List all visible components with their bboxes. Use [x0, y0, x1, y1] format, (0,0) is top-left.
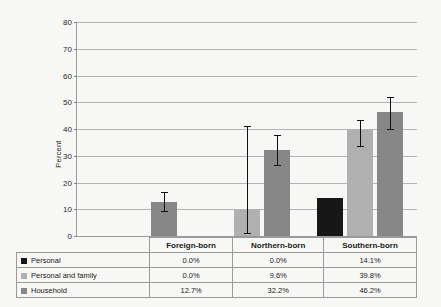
y-axis-tick-label: 60	[63, 71, 72, 80]
error-bar-cap	[244, 126, 251, 127]
legend-item-personal: Personal	[17, 253, 150, 268]
group-separator	[190, 22, 191, 236]
legend-label-household: Household	[31, 286, 67, 295]
legend-label-personal: Personal	[31, 256, 61, 265]
gridline	[77, 22, 417, 23]
column-header-foreign-born: Foreign-born	[149, 238, 232, 253]
cell-personal-southern-born: 14.1%	[324, 253, 417, 268]
error-bar-cap	[161, 211, 168, 212]
cell-personal-and-family-northern-born: 9.6%	[233, 268, 324, 283]
error-bar-cap	[357, 146, 364, 147]
y-axis-tick	[74, 76, 77, 77]
error-bar-cap	[387, 129, 394, 130]
legend-swatch-personal-and-family	[21, 273, 27, 279]
column-header-southern-born: Southern-born	[324, 238, 417, 253]
error-bar-cap	[244, 233, 251, 234]
y-axis-tick-label: 10	[63, 205, 72, 214]
legend-label-personal-and-family: Personal and family	[31, 271, 97, 280]
y-axis-tick	[74, 209, 77, 210]
cell-personal-and-family-foreign-born: 0.0%	[149, 268, 232, 283]
error-bar-cap	[357, 120, 364, 121]
cell-household-southern-born: 46.2%	[324, 283, 417, 298]
plot-area: 01020304050607080	[76, 22, 417, 237]
y-axis-tick	[74, 183, 77, 184]
bar	[377, 112, 403, 236]
gridline	[77, 102, 417, 103]
table-row: Household 12.7% 32.2% 46.2%	[17, 283, 417, 298]
table-row: Personal and family 0.0% 9.6% 39.8%	[17, 268, 417, 283]
cell-household-foreign-born: 12.7%	[149, 283, 232, 298]
error-bar-cap	[274, 135, 281, 136]
y-axis-label: Percent	[54, 140, 63, 167]
table-corner-cell	[17, 238, 150, 253]
group-separator	[304, 22, 305, 236]
y-axis-tick-label: 50	[63, 98, 72, 107]
y-axis-tick	[74, 129, 77, 130]
error-bar-cap	[274, 165, 281, 166]
error-bar	[390, 97, 391, 128]
chart-figure: Percent 01020304050607080 Foreign-born N…	[0, 0, 441, 307]
cell-household-northern-born: 32.2%	[233, 283, 324, 298]
y-axis-tick-label: 70	[63, 44, 72, 53]
data-table: Foreign-born Northern-born Southern-born…	[16, 237, 417, 298]
cell-personal-foreign-born: 0.0%	[149, 253, 232, 268]
y-axis-tick	[74, 22, 77, 23]
error-bar	[247, 126, 248, 234]
y-axis-tick-label: 40	[63, 125, 72, 134]
table-head: Foreign-born Northern-born Southern-born	[17, 238, 417, 253]
cell-personal-northern-born: 0.0%	[233, 253, 324, 268]
y-axis-tick-label: 20	[63, 178, 72, 187]
error-bar-cap	[161, 192, 168, 193]
table-row: Personal 0.0% 0.0% 14.1%	[17, 253, 417, 268]
gridline	[77, 76, 417, 77]
y-axis-tick	[74, 102, 77, 103]
bar	[317, 198, 343, 236]
cell-personal-and-family-southern-born: 39.8%	[324, 268, 417, 283]
y-axis-tick	[74, 156, 77, 157]
legend-swatch-personal	[21, 258, 27, 264]
legend-item-personal-and-family: Personal and family	[17, 268, 150, 283]
error-bar	[277, 135, 278, 166]
table-body: Personal 0.0% 0.0% 14.1% Personal and fa…	[17, 253, 417, 298]
column-header-northern-born: Northern-born	[233, 238, 324, 253]
y-axis-tick-label: 30	[63, 151, 72, 160]
error-bar-cap	[387, 97, 394, 98]
gridline	[77, 49, 417, 50]
legend-swatch-household	[21, 288, 27, 294]
y-axis-tick	[74, 49, 77, 50]
y-axis-tick-label: 80	[63, 18, 72, 27]
legend-item-household: Household	[17, 283, 150, 298]
table-header-row: Foreign-born Northern-born Southern-born	[17, 238, 417, 253]
error-bar	[164, 192, 165, 211]
error-bar	[360, 120, 361, 146]
